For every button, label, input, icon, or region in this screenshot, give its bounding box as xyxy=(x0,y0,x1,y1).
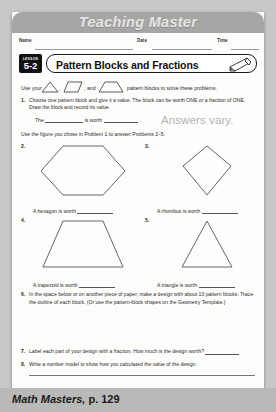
block-value-blank[interactable] xyxy=(104,116,138,123)
triangle-icon xyxy=(41,81,59,93)
shape-problems-grid: 2. A hexagon is worth 3. xyxy=(21,143,255,291)
name-date-time-row: Name Date Time xyxy=(19,36,257,51)
lesson-title-bar: LESSON 5-2 Pattern Blocks and Fractions xyxy=(19,54,257,74)
use-figure-instruction: Use the figure you chose in Problem 1 to… xyxy=(21,131,255,137)
problem-4: 4. A trapezoid is worth xyxy=(21,217,139,289)
page-footer: Math Masters, p. 129 xyxy=(0,388,276,412)
problem-3-caption: A rhombus is worth xyxy=(157,207,238,214)
trapezoid-icon xyxy=(98,81,124,93)
design-work-space[interactable] xyxy=(21,306,255,344)
problem-2: 2. A hexagon is worth xyxy=(21,143,139,215)
time-label: Time xyxy=(217,38,228,43)
problem-4-caption: A trapezoid is worth xyxy=(33,281,115,288)
answers-vary-annotation: Answers vary. xyxy=(161,114,234,126)
footer-source-title: Math Masters, xyxy=(12,393,85,405)
intro-text-2: , xyxy=(59,85,60,91)
intro-line: Use your , , and pattern blocks to solve… xyxy=(21,81,255,93)
problem-3: 3. A rhombus is worth xyxy=(145,143,263,215)
problem-5: 5. A triangle is worth xyxy=(145,217,263,289)
problem-5-caption: A triangle is worth xyxy=(157,281,235,288)
problem-2-number: 2. xyxy=(21,143,25,149)
footer-text: Math Masters, p. 129 xyxy=(12,393,120,405)
intro-text-3: , and xyxy=(84,85,96,91)
problem-7-answer-blank[interactable] xyxy=(205,348,239,355)
banner-title: Teaching Master xyxy=(12,14,264,30)
problem-4-answer-blank[interactable] xyxy=(79,281,115,288)
problem-1-answer-row: The is worth . Answers vary. xyxy=(21,116,255,128)
problem-4-caption-text: A trapezoid is worth xyxy=(33,282,77,288)
problem-8-text: Write a number model to show how you cal… xyxy=(29,361,255,368)
problem-2-answer-blank[interactable] xyxy=(77,207,113,214)
problem-6-number: 6. xyxy=(21,291,25,298)
name-input-rule[interactable] xyxy=(35,49,133,50)
problem-5-caption-text: A triangle is worth xyxy=(157,282,197,288)
footer-page-number: p. 129 xyxy=(88,393,119,405)
problem-4-number: 4. xyxy=(21,217,25,223)
the-label: The xyxy=(35,117,44,123)
trapezoid-figure xyxy=(35,218,131,271)
lesson-title-box: Pattern Blocks and Fractions xyxy=(46,54,257,73)
problem-2-caption-text: A hexagon is worth xyxy=(33,208,76,214)
is-worth-label: is worth xyxy=(85,117,103,123)
problem-1-text: Choose one pattern block and give it a v… xyxy=(29,97,255,111)
lesson-badge: LESSON 5-2 xyxy=(19,54,42,73)
problem-8-answer-rule[interactable] xyxy=(29,375,255,376)
pencil-icon xyxy=(225,56,253,73)
problem-3-answer-blank[interactable] xyxy=(202,207,238,214)
problem-1-number: 1. xyxy=(21,97,25,104)
problem-6-text: In the space below or on another piece o… xyxy=(29,291,255,305)
intro-text-4: pattern blocks to solve these problems. xyxy=(127,85,217,91)
name-label: Name xyxy=(19,38,32,43)
triangle-figure xyxy=(159,218,255,271)
problem-5-answer-blank[interactable] xyxy=(199,281,235,288)
problem-1: 1. Choose one pattern block and give it … xyxy=(21,97,255,111)
problem-3-number: 3. xyxy=(145,143,149,149)
problem-2-caption: A hexagon is worth xyxy=(33,207,113,214)
lesson-badge-number: 5-2 xyxy=(19,61,42,71)
problem-3-caption-text: A rhombus is worth xyxy=(157,208,200,214)
page-title: Pattern Blocks and Fractions xyxy=(56,59,199,71)
problem-7: 7. Label each part of your design with a… xyxy=(21,348,255,355)
rhombus-figure xyxy=(159,144,255,197)
time-input-rule[interactable] xyxy=(231,49,259,50)
period-label: . xyxy=(139,117,140,123)
problem-8: 8. Write a number model to show how you … xyxy=(21,361,255,368)
date-label: Date xyxy=(137,38,147,43)
rhombus-icon xyxy=(63,81,83,93)
problem-6: 6. In the space below or on another piec… xyxy=(21,291,255,305)
worksheet-page: Teaching Master Name Date Time LESSON 5-… xyxy=(12,12,264,400)
worksheet-content: Use your , , and pattern blocks to solve… xyxy=(12,81,264,368)
intro-text-1: Use your xyxy=(21,85,42,91)
problem-7-number: 7. xyxy=(21,348,25,355)
hexagon-figure xyxy=(35,144,131,197)
teaching-master-banner: Teaching Master xyxy=(12,12,264,33)
problem-5-number: 5. xyxy=(145,217,149,223)
problem-8-number: 8. xyxy=(21,361,25,368)
block-name-blank[interactable] xyxy=(45,116,83,123)
problem-7-text: Label each part of your design with a fr… xyxy=(29,348,204,354)
date-input-rule[interactable] xyxy=(152,49,212,50)
